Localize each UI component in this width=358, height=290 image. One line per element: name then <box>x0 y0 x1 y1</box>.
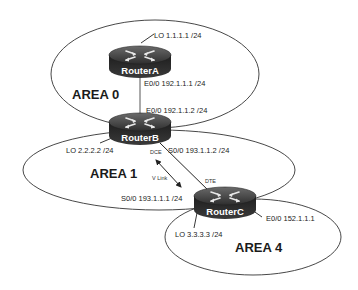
routerA-e0-label: E0/0 192.1.1.1 /24 <box>144 79 205 88</box>
router-a[interactable]: RouterA <box>109 46 171 78</box>
router-b[interactable]: RouterB <box>109 113 171 145</box>
dce-label: DCE <box>150 149 162 155</box>
area1-label: AREA 1 <box>90 166 137 181</box>
vlink-label: V Link <box>152 175 168 181</box>
routerB-s0-label: S0/0 193.1.1.2 /24 <box>168 146 229 155</box>
routerB-lo-leader <box>100 138 112 143</box>
routerB-lo-label: LO 2.2.2.2 /24 <box>66 146 114 155</box>
dte-label: DTE <box>205 178 216 184</box>
routerC-lo-leader <box>194 213 197 228</box>
area0-label: AREA 0 <box>72 87 119 102</box>
routerC-e0-label: E0/0 152.1.1.1 <box>266 214 315 223</box>
router-b-label: RouterB <box>121 132 159 143</box>
router-c-label: RouterC <box>206 206 244 217</box>
vlink-arrow <box>156 160 181 187</box>
routerA-lo-leader <box>141 34 154 43</box>
router-c[interactable]: RouterC <box>194 187 256 219</box>
routerC-lo-label: LO 3.3.3.3 /24 <box>175 230 223 239</box>
routerA-lo-label: LO 1.1.1.1 /24 <box>154 31 202 40</box>
routerB-e0-label: E0/0 192.1.1.2 /24 <box>146 106 207 115</box>
network-diagram: RouterA RouterB RouterC AREA 0 AREA 1 AR… <box>0 0 358 290</box>
area4-label: AREA 4 <box>235 240 283 255</box>
routerC-s0-label: S0/0 193.1.1.1 /24 <box>121 194 182 203</box>
router-a-label: RouterA <box>121 65 159 76</box>
